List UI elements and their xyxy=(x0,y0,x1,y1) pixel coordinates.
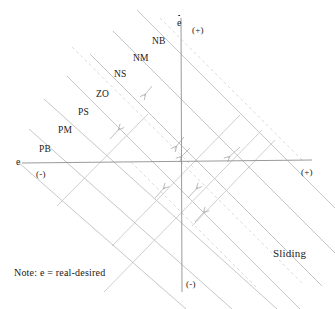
rule-line-NM xyxy=(113,31,335,253)
fuzzy-label-pb: PB xyxy=(39,145,51,155)
fuzzy-label-ns: NS xyxy=(114,70,127,80)
figure-note: Note: e = real-desired xyxy=(14,268,105,278)
y-axis-negative-sign: (-) xyxy=(186,280,196,289)
rule-line-dashed-4 xyxy=(181,162,303,284)
overdot-icon xyxy=(179,15,181,17)
y-axis-label-e-dot: e xyxy=(177,18,182,28)
rule-line-PM xyxy=(29,129,232,309)
y-axis-label-e-dot-text: e xyxy=(177,17,182,28)
rule-line-dashed-1 xyxy=(72,47,196,170)
convergence-arrow-down-left-1 xyxy=(144,86,152,96)
rule-line-dashed-group xyxy=(72,18,304,289)
figure-canvas: NB NM NS ZO PS PM PB e e (+) (-) (-) (+)… xyxy=(0,0,335,309)
x-axis-label-e: e xyxy=(16,157,21,167)
rule-line-NB xyxy=(137,10,335,208)
rule-line-PB xyxy=(18,162,186,309)
fuzzy-label-ps: PS xyxy=(78,108,89,118)
convergence-arrow-up-right-3 xyxy=(188,187,198,198)
fuzzy-label-pm: PM xyxy=(58,126,72,136)
rule-line-group xyxy=(18,10,335,309)
rule-line-dashed-3 xyxy=(131,162,258,289)
sliding-line-origin xyxy=(112,115,240,246)
x-axis-positive-sign: (+) xyxy=(301,168,313,177)
sliding-region-label: Sliding xyxy=(273,248,306,259)
fuzzy-label-zo: ZO xyxy=(96,90,109,100)
fuzzy-label-nb: NB xyxy=(152,37,166,47)
sliding-line-center xyxy=(104,130,262,292)
y-axis-positive-sign: (+) xyxy=(192,26,204,35)
x-axis-negative-sign: (-) xyxy=(36,170,46,179)
convergence-arrow-up-right-4 xyxy=(195,211,205,222)
fuzzy-label-nm: NM xyxy=(133,54,149,64)
convergence-arrow-up-right-1 xyxy=(110,128,120,139)
vertical-axis xyxy=(181,18,182,292)
phase-plane-plot xyxy=(0,0,335,309)
